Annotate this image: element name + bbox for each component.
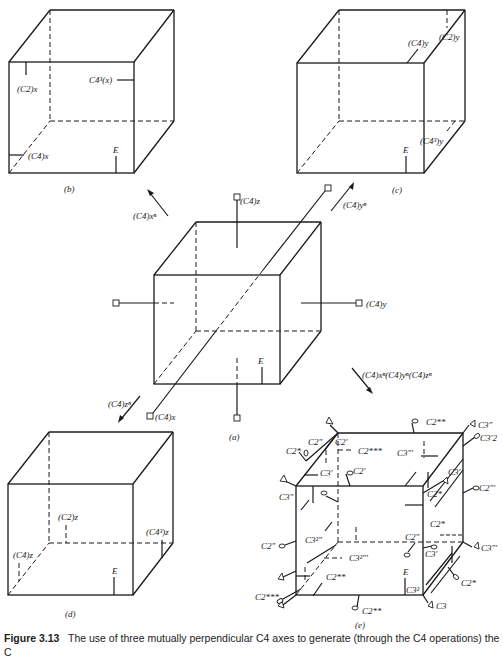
label-e-e: E — [402, 567, 409, 577]
label-e-c32: C3² — [406, 585, 420, 595]
label-e-c2s-l: C2* — [286, 446, 302, 456]
label-c2y: (C2)y — [439, 32, 460, 42]
label-e-c2s-r1: C2* — [427, 489, 443, 499]
label-arrow-d: (C4)zⁿ — [108, 399, 131, 409]
label-e-c2sss-b: C2*** — [255, 592, 280, 602]
label-c2x: (C2)x — [17, 84, 38, 94]
label-e-c3p2: C3'2 — [480, 433, 497, 443]
figure-number: Figure 3.13 — [4, 632, 59, 644]
label-c4y-a: (C4)y — [366, 299, 387, 309]
label-c4x-a: (C4)x — [155, 412, 176, 422]
label-e-c3p-r: C3' — [448, 467, 462, 477]
label-e-c2ss-m: C2** — [326, 572, 346, 582]
panel-label-b: (b) — [64, 184, 75, 194]
label-c4z-d: (C4)z — [13, 550, 33, 560]
label-c4x: (C4)x — [28, 151, 49, 161]
label-e-c2sss-t: C2*** — [358, 446, 383, 456]
label-e-c32pp: C3²" — [305, 535, 322, 545]
label-c43x: C4³(x) — [89, 75, 112, 85]
label-e-c2ss-b: C2** — [362, 606, 382, 616]
label-e-c2s-r3: C2* — [461, 578, 477, 588]
label-c4y: (C4)y — [408, 38, 429, 48]
panel-label-e: (e) — [355, 620, 365, 630]
label-e-c2ss-top: C2** — [426, 417, 446, 427]
label-arrow-b: (C4)xⁿ — [133, 211, 156, 221]
label-e-c2p-m: C2' — [353, 466, 367, 476]
label-e-c2p-t: C2' — [335, 437, 349, 447]
panel-label-c: (c) — [392, 185, 402, 195]
label-c43y: (C4³)y — [420, 136, 443, 146]
label-c43z: (C4³)z — [146, 527, 169, 537]
label-e-a: E — [257, 356, 264, 366]
figure-caption: Figure 3.13 The use of three mutually pe… — [4, 632, 503, 644]
label-e-c3pp-l: C3" — [279, 492, 294, 502]
label-arrow-c: (C4)yⁿ — [343, 200, 366, 210]
label-e-c2pp-ll: C2" — [261, 541, 276, 551]
label-e-c2pp-m: C2" — [405, 532, 420, 542]
figure-caption-continuation: C — [4, 646, 12, 658]
label-e-c2ppp-r: C2"' — [479, 483, 496, 493]
label-e-d: E — [111, 566, 118, 576]
label-arrow-e: (C4)xⁿ(C4)yⁿ(C4)zⁿ — [362, 370, 432, 380]
label-e-c3: C3 — [436, 601, 447, 611]
label-e-c3p-m: C3' — [425, 549, 439, 559]
cube-d — [8, 432, 173, 595]
label-e-c3pp-tr: C3" — [478, 420, 493, 430]
label-e-c3ppp: C3"' — [397, 448, 414, 458]
label-e-c: E — [402, 145, 409, 155]
label-e-c32ppp: C3²"' — [349, 553, 369, 563]
label-e-c3ppp-r: C3"' — [481, 543, 498, 553]
panel-label-d: (d) — [65, 609, 76, 619]
label-e-c2pp-l: C2" — [308, 437, 323, 447]
label-c2z: (C2)z — [58, 512, 78, 522]
label-e-c3p-l: C3' — [320, 468, 334, 478]
figure-caption-text: The use of three mutually perpendicular … — [68, 632, 499, 644]
label-e-b: E — [112, 145, 119, 155]
label-e-c2s-r2: C2* — [430, 519, 446, 529]
panel-label-a: (a) — [229, 432, 240, 442]
label-c4z: (C4)z — [240, 196, 260, 206]
